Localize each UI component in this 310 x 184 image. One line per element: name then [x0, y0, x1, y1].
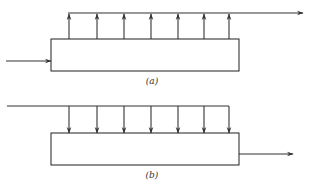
panel-b	[7, 106, 293, 165]
vessel-box	[51, 133, 239, 165]
flow-distribution-diagram: (a) (b)	[0, 0, 310, 184]
panel-a-label: (a)	[146, 76, 159, 86]
vessel-box	[51, 39, 239, 71]
panel-a	[6, 13, 303, 71]
panel-b-label: (b)	[146, 170, 159, 180]
